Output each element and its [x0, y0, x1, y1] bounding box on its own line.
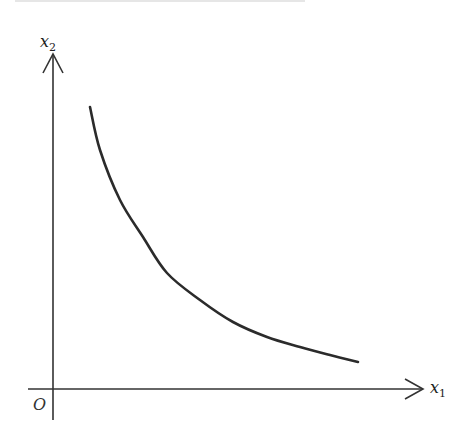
y-axis-label-main: x: [40, 32, 49, 51]
indifference-curve: [90, 107, 358, 362]
origin-label: O: [33, 395, 46, 414]
diagram-canvas: x2 x1 O: [0, 0, 465, 441]
x-axis-label-sub: 1: [439, 387, 446, 400]
x-axis-label: x1: [430, 378, 446, 400]
y-axis-label: x2: [40, 32, 56, 54]
y-axis-label-sub: 2: [49, 41, 56, 54]
x-axis-label-main: x: [430, 378, 439, 397]
